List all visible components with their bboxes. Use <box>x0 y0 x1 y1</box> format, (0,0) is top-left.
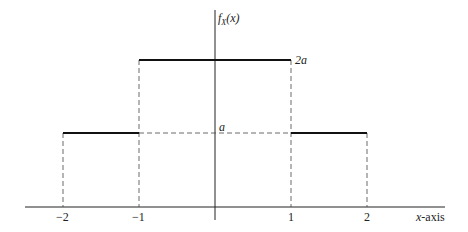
tick-label-2: 2 <box>364 210 370 225</box>
x-axis-label: x-axis <box>416 210 445 225</box>
tick-label-1: 1 <box>288 210 294 225</box>
tick-label-minus2: −2 <box>56 210 69 225</box>
level-label-2a: 2a <box>295 53 307 68</box>
y-axis-label: fX(x) <box>218 11 240 27</box>
level-label-a: a <box>219 120 225 135</box>
pdf-plot <box>0 0 468 232</box>
tick-label-minus1: −1 <box>132 210 145 225</box>
